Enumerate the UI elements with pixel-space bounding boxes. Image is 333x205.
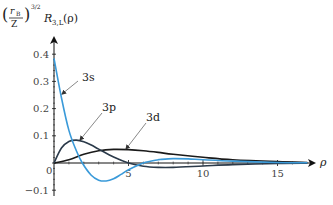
ylabel-exponent: 3/2: [31, 3, 41, 10]
annotation-3s-arrow: [62, 81, 78, 94]
y-tick-label: 0.4: [33, 49, 49, 60]
annotation-3d-label: 3d: [146, 111, 160, 124]
x-tick-label: 10: [197, 168, 210, 179]
ylabel-func: R: [43, 12, 52, 25]
y-tick-label: −0.1: [25, 185, 49, 196]
y-axis-label: ( r B Z ) 3/2 R 3,L (ρ): [2, 3, 78, 29]
ylabel-frac-num-sub: B: [16, 10, 21, 17]
x-tick-label: 15: [271, 168, 284, 179]
axes: ρ: [54, 38, 327, 196]
series-3d-line: [54, 149, 307, 163]
annotation-3p-label: 3p: [102, 101, 116, 114]
radial-wavefunction-chart: ( r B Z ) 3/2 R 3,L (ρ) ρ −0.10.10.20.30…: [0, 0, 333, 205]
annotation-3s-label: 3s: [82, 71, 95, 84]
annotation-3p-arrow: [80, 113, 102, 140]
ylabel-frac-den: Z: [11, 19, 17, 29]
annotations: 3s 3p 3d: [62, 71, 160, 149]
x-tick-label: 0: [46, 165, 52, 176]
svg-text:(: (: [2, 5, 8, 24]
x-axis-label: ρ: [319, 156, 327, 169]
annotation-3d-arrow: [126, 123, 146, 149]
svg-text:): ): [24, 5, 30, 24]
y-tick-label: 0.2: [33, 103, 49, 114]
y-tick-label: 0.3: [33, 76, 49, 87]
y-tick-label: 0.1: [33, 130, 49, 141]
ylabel-frac-num: r: [10, 6, 15, 16]
ylabel-func-sub: 3,L: [52, 19, 64, 27]
ylabel-arg: (ρ): [63, 12, 78, 25]
